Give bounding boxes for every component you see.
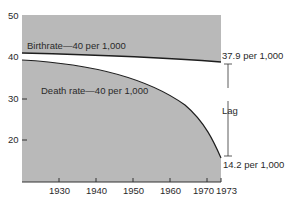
lag-label-bg (222, 88, 236, 101)
x-tick-label-1973: 1973 (216, 186, 237, 196)
x-tick-label-1970: 1970 (193, 186, 214, 196)
x-tick-label-1940: 1940 (86, 186, 107, 196)
birthrate-label: Birthrate—40 per 1,000 (27, 41, 126, 51)
x-tick-label-1950: 1950 (123, 186, 144, 196)
birthrate-end-value: 37.9 per 1,000 (222, 51, 283, 61)
y-tick-label-30: 30 (8, 94, 19, 104)
birthrate-area (22, 15, 221, 62)
death-rate-label: Death rate—40 per 1,000 (41, 86, 148, 96)
y-tick-label-50: 50 (8, 11, 19, 21)
chart-canvas (0, 0, 290, 203)
x-tick-label-1960: 1960 (160, 186, 181, 196)
x-tick-label-1930: 1930 (49, 186, 70, 196)
lag-label: Lag (222, 106, 238, 116)
y-tick-label-40: 40 (8, 52, 19, 62)
death-rate-end-value: 14.2 per 1,000 (223, 160, 284, 170)
y-tick-label-20: 20 (8, 135, 19, 145)
death-rate-area (22, 60, 221, 182)
